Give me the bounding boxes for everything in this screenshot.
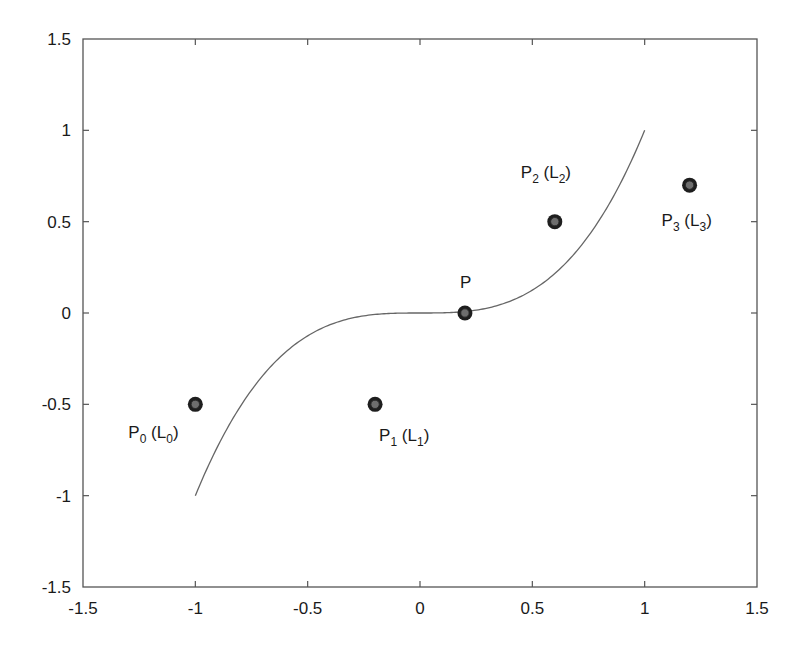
x-tick-label: 0 — [415, 599, 424, 618]
x-tick-label: -0.5 — [293, 599, 322, 618]
y-tick-label: -1.5 — [42, 578, 71, 597]
y-tick-label: -0.5 — [42, 395, 71, 414]
y-tick-label: 1 — [62, 121, 71, 140]
point-series — [188, 178, 697, 412]
x-tick-label: 0.5 — [521, 599, 545, 618]
y-tick-label: 0 — [62, 304, 71, 323]
data-point-marker-core — [461, 309, 469, 317]
y-tick-label: 1.5 — [47, 30, 71, 49]
x-tick-label: -1.5 — [68, 599, 97, 618]
data-point-marker-core — [685, 181, 693, 189]
x-tick-label: 1 — [640, 599, 649, 618]
y-tick-label: 0.5 — [47, 213, 71, 232]
point-label: P — [460, 273, 471, 292]
chart: -1.5-1-0.500.511.5 -1.5-1-0.500.511.5 P0… — [0, 0, 800, 661]
point-label: P3 (L3) — [662, 211, 712, 234]
x-axis-ticks: -1.5-1-0.500.511.5 — [68, 39, 768, 618]
data-point-marker-core — [371, 400, 379, 408]
point-label: P2 (L2) — [521, 163, 571, 186]
x-tick-label: -1 — [188, 599, 203, 618]
y-tick-label: -1 — [56, 487, 71, 506]
point-label: P0 (L0) — [128, 423, 178, 446]
point-labels: P0 (L0)P1 (L1)PP2 (L2)P3 (L3) — [128, 163, 712, 450]
data-point-marker-core — [551, 217, 559, 225]
data-point-marker-core — [191, 400, 199, 408]
point-label: P1 (L1) — [379, 426, 429, 449]
x-tick-label: 1.5 — [745, 599, 769, 618]
